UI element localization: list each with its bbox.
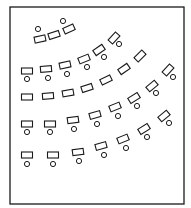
- desk: [22, 68, 33, 74]
- chair: [50, 161, 55, 166]
- desk: [109, 102, 121, 112]
- desk: [34, 35, 46, 43]
- desk: [117, 134, 129, 144]
- desk: [138, 124, 151, 135]
- row-2: [22, 50, 147, 100]
- row-1: [22, 32, 122, 82]
- chair: [64, 71, 69, 76]
- chair: [24, 161, 29, 166]
- chair: [116, 41, 121, 46]
- chair: [60, 18, 65, 23]
- chair: [24, 76, 29, 81]
- desk: [22, 94, 33, 100]
- chair: [101, 152, 106, 157]
- chair: [115, 113, 120, 118]
- chair: [24, 129, 29, 134]
- desk: [67, 116, 79, 123]
- desk: [93, 44, 105, 55]
- seats-layer: [22, 18, 176, 166]
- row-4: [22, 110, 172, 166]
- desk: [100, 75, 113, 85]
- desk: [81, 83, 93, 92]
- chair: [170, 74, 175, 79]
- desk: [128, 93, 141, 104]
- desk: [22, 152, 33, 158]
- chair: [84, 64, 89, 69]
- chair: [45, 75, 50, 80]
- desk: [48, 30, 60, 39]
- seating-diagram: [0, 0, 191, 208]
- seating-diagram-canvas: [0, 0, 191, 208]
- desk: [72, 148, 84, 155]
- chair: [101, 54, 106, 59]
- chair: [35, 26, 40, 31]
- front-group: [34, 18, 75, 43]
- chair: [123, 145, 128, 150]
- desk: [134, 50, 146, 62]
- desk: [48, 152, 59, 158]
- desk: [63, 24, 76, 34]
- desk: [89, 111, 101, 120]
- chair: [47, 129, 52, 134]
- desk: [78, 54, 90, 64]
- chair: [71, 126, 76, 131]
- desk: [62, 89, 74, 97]
- chair: [153, 90, 158, 95]
- desk: [59, 61, 71, 69]
- desk: [22, 121, 33, 127]
- chair: [134, 103, 139, 108]
- chair: [166, 120, 171, 125]
- desk: [108, 32, 120, 44]
- desk: [45, 121, 56, 127]
- chair: [76, 158, 81, 163]
- desk: [40, 66, 51, 73]
- desk: [95, 142, 107, 151]
- chair: [144, 134, 149, 139]
- chair: [94, 121, 99, 126]
- desk: [118, 63, 130, 74]
- desk: [42, 93, 53, 100]
